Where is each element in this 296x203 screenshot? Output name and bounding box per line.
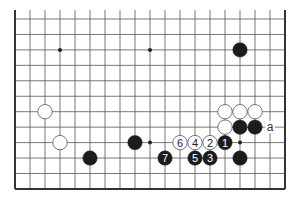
move-number: 1 <box>222 137 228 149</box>
white-stone <box>233 105 247 119</box>
go-board: 1234567 a <box>0 0 296 203</box>
stone-disc <box>128 135 142 149</box>
white-stone-4: 4 <box>188 135 202 149</box>
black-stone-5: 5 <box>188 151 202 165</box>
move-number: 4 <box>192 137 198 149</box>
black-stone <box>233 151 247 165</box>
move-number: 7 <box>162 152 168 164</box>
move-number: 5 <box>192 152 198 164</box>
stone-disc <box>83 151 97 165</box>
white-stone <box>248 105 262 119</box>
white-stone <box>218 120 232 134</box>
black-stone-1: 1 <box>218 135 232 149</box>
star-point <box>148 141 152 145</box>
stone-disc <box>248 120 262 134</box>
black-stone-3: 3 <box>203 151 217 165</box>
stone-disc <box>218 120 232 134</box>
black-stone <box>83 151 97 165</box>
stone-disc <box>218 105 232 119</box>
point-labels: a <box>265 120 275 134</box>
point-label-a: a <box>267 120 274 134</box>
black-stone-7: 7 <box>158 151 172 165</box>
stone-disc <box>233 151 247 165</box>
move-number: 2 <box>207 137 213 149</box>
white-stone <box>218 105 232 119</box>
black-stone <box>233 120 247 134</box>
white-stone-2: 2 <box>203 135 217 149</box>
stone-disc <box>248 105 262 119</box>
white-stone-6: 6 <box>173 135 187 149</box>
star-point <box>58 48 62 52</box>
black-stone <box>233 43 247 57</box>
black-stone <box>128 135 142 149</box>
white-stone <box>53 135 67 149</box>
stone-disc <box>233 43 247 57</box>
black-stone <box>248 120 262 134</box>
star-point <box>238 141 242 145</box>
stone-disc <box>53 135 67 149</box>
move-number: 6 <box>177 137 183 149</box>
stone-disc <box>38 105 52 119</box>
stone-disc <box>233 105 247 119</box>
star-point <box>148 48 152 52</box>
stone-disc <box>233 120 247 134</box>
move-number: 3 <box>207 152 213 164</box>
white-stone <box>38 105 52 119</box>
